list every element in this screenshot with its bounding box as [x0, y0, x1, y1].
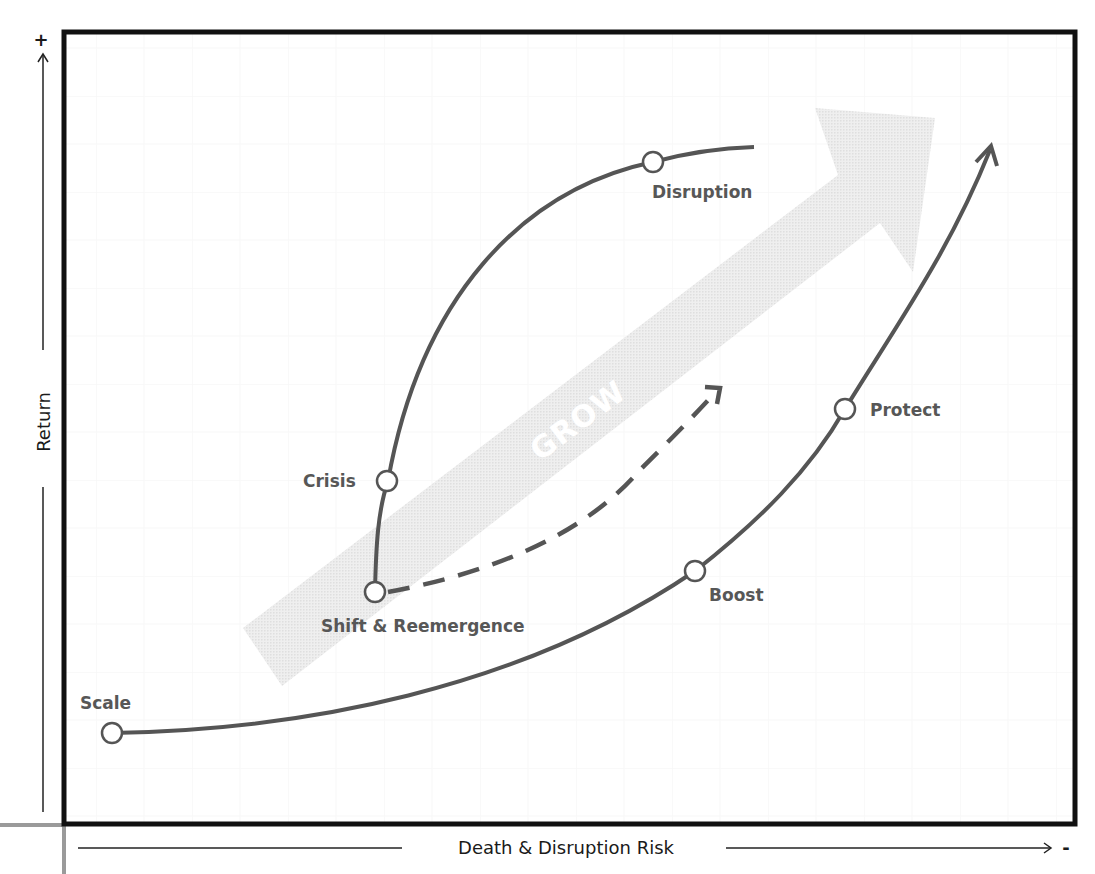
y-plus-marker: + [33, 29, 48, 50]
node-protect[interactable]: Protect [835, 399, 940, 420]
corner-guide [0, 825, 64, 874]
x-minus-marker: - [1062, 837, 1069, 858]
node-label-scale: Scale [80, 693, 131, 713]
diagram-canvas: GROW + Return Death & Disruption Risk - [0, 0, 1095, 874]
x-axis: Death & Disruption Risk - [78, 837, 1070, 858]
node-label-shift: Shift & Reemergence [321, 616, 525, 636]
node-label-disruption: Disruption [652, 182, 752, 202]
node-label-crisis: Crisis [303, 471, 356, 491]
node-label-boost: Boost [709, 585, 764, 605]
x-axis-label: Death & Disruption Risk [458, 837, 674, 858]
y-axis-label: Return [33, 392, 54, 452]
node-crisis[interactable]: Crisis [303, 471, 397, 491]
y-axis: + Return [33, 29, 54, 812]
node-label-protect: Protect [870, 400, 940, 420]
